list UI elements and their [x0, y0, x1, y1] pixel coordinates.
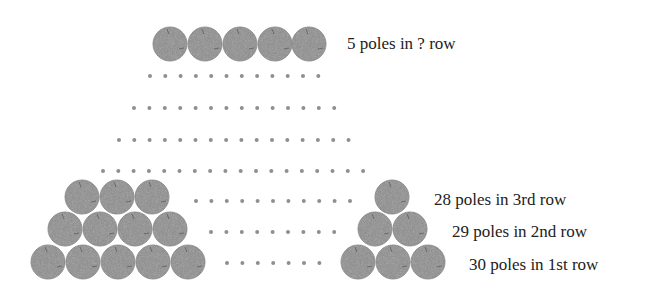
pole [188, 27, 222, 61]
dot [256, 199, 260, 203]
pole [136, 245, 170, 279]
dot [132, 106, 136, 110]
pole [358, 212, 392, 246]
dot [301, 138, 305, 142]
pole-group-top-row [153, 27, 326, 61]
dot [117, 138, 121, 142]
dot [317, 106, 321, 110]
pole [171, 245, 205, 279]
dot [331, 138, 335, 142]
pole-stack-diagram: 5 poles in ? row 28 poles in 3rd row 29 … [0, 0, 647, 296]
pole [83, 212, 117, 246]
pole [100, 180, 134, 214]
dot [271, 230, 275, 234]
label-row-1: 30 poles in 1st row [469, 256, 598, 273]
pole [292, 27, 326, 61]
dot [240, 74, 244, 78]
pole [66, 245, 100, 279]
dot [316, 138, 320, 142]
dot [223, 169, 227, 173]
dot [194, 138, 198, 142]
dot [286, 199, 290, 203]
dot [270, 74, 274, 78]
label-top-row: 5 poles in ? row [347, 35, 456, 52]
dot [163, 106, 167, 110]
dot [317, 230, 321, 234]
dot [225, 74, 229, 78]
dot [225, 261, 229, 265]
pole [153, 212, 187, 246]
dot [270, 138, 274, 142]
dot [209, 74, 213, 78]
label-row-3: 28 poles in 3rd row [434, 191, 566, 208]
dot [271, 261, 275, 265]
pole [258, 27, 292, 61]
dot [224, 138, 228, 142]
dot [147, 106, 151, 110]
dot [116, 169, 120, 173]
dot [225, 199, 229, 203]
pole [135, 180, 169, 214]
dot [240, 199, 244, 203]
dot [148, 74, 152, 78]
dot [193, 169, 197, 173]
pole [48, 212, 82, 246]
dot [302, 261, 306, 265]
dot [255, 230, 259, 234]
dot [147, 169, 151, 173]
dot [301, 74, 305, 78]
dot [301, 106, 305, 110]
dot [132, 169, 136, 173]
dot [301, 230, 305, 234]
dot [224, 106, 228, 110]
dot [332, 106, 336, 110]
pole-group-right-pile [341, 180, 445, 279]
dot [255, 74, 259, 78]
dot [255, 138, 259, 142]
poles [31, 27, 445, 279]
dot [285, 138, 289, 142]
label-row-2: 29 poles in 2nd row [452, 223, 587, 240]
dot [209, 106, 213, 110]
dot [209, 138, 213, 142]
diagram-canvas [0, 0, 647, 296]
dot [255, 106, 259, 110]
dot [332, 230, 336, 234]
pole-group-left-pile [31, 180, 205, 279]
dot [178, 138, 182, 142]
dot [148, 138, 152, 142]
pole [101, 245, 135, 279]
dot [209, 230, 213, 234]
dot [315, 169, 319, 173]
dot [240, 106, 244, 110]
dot [300, 169, 304, 173]
dot [286, 106, 290, 110]
dot [178, 106, 182, 110]
dot [346, 169, 350, 173]
dot [194, 199, 198, 203]
dot [316, 74, 320, 78]
dot [285, 169, 289, 173]
dot [254, 169, 258, 173]
dot [208, 169, 212, 173]
dot [286, 74, 290, 78]
dot [333, 199, 337, 203]
dot [271, 106, 275, 110]
dot [224, 230, 228, 234]
pole [375, 180, 409, 214]
dot [271, 199, 275, 203]
dot [287, 261, 291, 265]
dot [240, 230, 244, 234]
dot [347, 138, 351, 142]
pole [393, 212, 427, 246]
dot [194, 74, 198, 78]
dot [361, 169, 365, 173]
dot [256, 261, 260, 265]
dot [302, 199, 306, 203]
pole [65, 180, 99, 214]
pole [118, 212, 152, 246]
dot [348, 199, 352, 203]
dot [331, 169, 335, 173]
dot [163, 74, 167, 78]
dot [317, 199, 321, 203]
